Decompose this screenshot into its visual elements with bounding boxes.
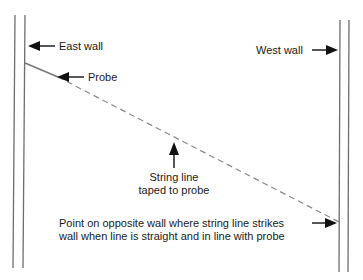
string-line-label-line2: taped to probe [134,184,214,197]
point-label-line1: Point on opposite wall where string line… [59,217,285,230]
east-wall-arrow-icon [28,41,55,51]
point-arrow-icon [312,218,337,228]
string-line-label-line1: String line [134,171,214,184]
west-wall-label: West wall [256,44,303,57]
probe-arrow-icon [57,72,84,82]
east-wall-inner-line [23,15,25,268]
west-wall-inner-line [339,20,340,272]
east-wall-label: East wall [59,40,103,53]
west-wall-arrow-icon [312,45,338,55]
string-line [58,77,339,222]
point-label-line2: wall when line is straight and in line w… [59,230,285,243]
west-wall-outer-line [348,20,349,272]
probe-line [25,63,58,77]
string-line-label: String line taped to probe [134,171,214,197]
point-label: Point on opposite wall where string line… [59,217,285,243]
east-wall-outer-line [13,15,15,268]
string-line-arrow-icon [169,142,179,168]
probe-label: Probe [88,71,117,84]
